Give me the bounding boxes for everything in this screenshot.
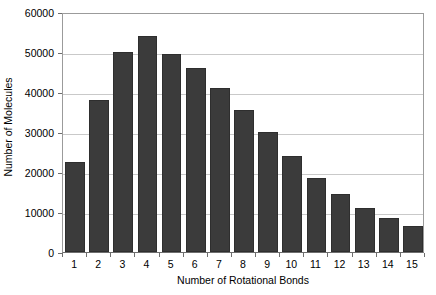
bar — [113, 52, 133, 252]
x-tick-label: 2 — [95, 258, 101, 270]
y-tick-label: 40000 — [25, 87, 54, 99]
y-tick-label: 10000 — [25, 207, 54, 219]
bar — [186, 68, 206, 252]
y-axis-tick — [58, 133, 62, 134]
x-axis-tick — [231, 253, 232, 257]
x-axis-tick — [110, 253, 111, 257]
y-axis-title-label: Number of Molecules — [2, 77, 14, 176]
x-axis-tick — [352, 253, 353, 257]
bar — [282, 156, 302, 252]
x-tick-label: 15 — [406, 258, 418, 270]
bar — [234, 110, 254, 252]
bar — [210, 88, 230, 252]
bar — [307, 178, 327, 252]
x-tick-label: 9 — [264, 258, 270, 270]
y-tick-label: 20000 — [25, 167, 54, 179]
x-tick-label: 5 — [168, 258, 174, 270]
x-tick-label: 13 — [358, 258, 370, 270]
bar — [258, 132, 278, 252]
x-tick-label: 1 — [71, 258, 77, 270]
y-tick-label: 50000 — [25, 47, 54, 59]
y-tick-label: 60000 — [25, 7, 54, 19]
y-tick-label: 30000 — [25, 127, 54, 139]
bar — [355, 208, 375, 252]
y-axis-tick — [58, 93, 62, 94]
y-axis-tick — [58, 13, 62, 14]
bar — [89, 100, 109, 252]
x-axis-tick — [86, 253, 87, 257]
x-axis-tick — [400, 253, 401, 257]
bar — [65, 162, 85, 252]
x-tick-label: 3 — [119, 258, 125, 270]
x-axis-tick — [376, 253, 377, 257]
bar — [403, 226, 423, 252]
x-axis-tick — [255, 253, 256, 257]
x-axis-tick — [207, 253, 208, 257]
plot-area — [62, 13, 424, 253]
bar-chart: Number of Molecules 01000020000300004000… — [0, 0, 436, 295]
x-axis-tick — [303, 253, 304, 257]
bar — [162, 54, 182, 252]
bars-layer — [63, 14, 423, 252]
x-axis-tick — [279, 253, 280, 257]
x-tick-label: 6 — [192, 258, 198, 270]
x-tick-label: 10 — [285, 258, 297, 270]
x-tick-label: 12 — [334, 258, 346, 270]
x-axis-title: Number of Rotational Bonds — [62, 274, 424, 286]
y-axis-tick — [58, 173, 62, 174]
bar — [379, 218, 399, 252]
x-tick-label: 4 — [144, 258, 150, 270]
x-tick-label: 8 — [240, 258, 246, 270]
y-axis-tick-labels: 0100002000030000400005000060000 — [16, 0, 58, 260]
y-axis-tick — [58, 53, 62, 54]
bar — [331, 194, 351, 252]
y-axis-tick — [58, 213, 62, 214]
x-axis-tick — [424, 253, 425, 257]
bar — [138, 36, 158, 252]
x-axis-tick — [327, 253, 328, 257]
y-axis-title: Number of Molecules — [0, 0, 16, 253]
x-tick-label: 14 — [382, 258, 394, 270]
x-axis-tick — [159, 253, 160, 257]
x-axis-tick — [134, 253, 135, 257]
x-tick-label: 7 — [216, 258, 222, 270]
x-axis-tick — [62, 253, 63, 257]
x-axis-tick — [183, 253, 184, 257]
y-tick-label: 0 — [48, 247, 54, 259]
x-tick-label: 11 — [310, 258, 321, 270]
